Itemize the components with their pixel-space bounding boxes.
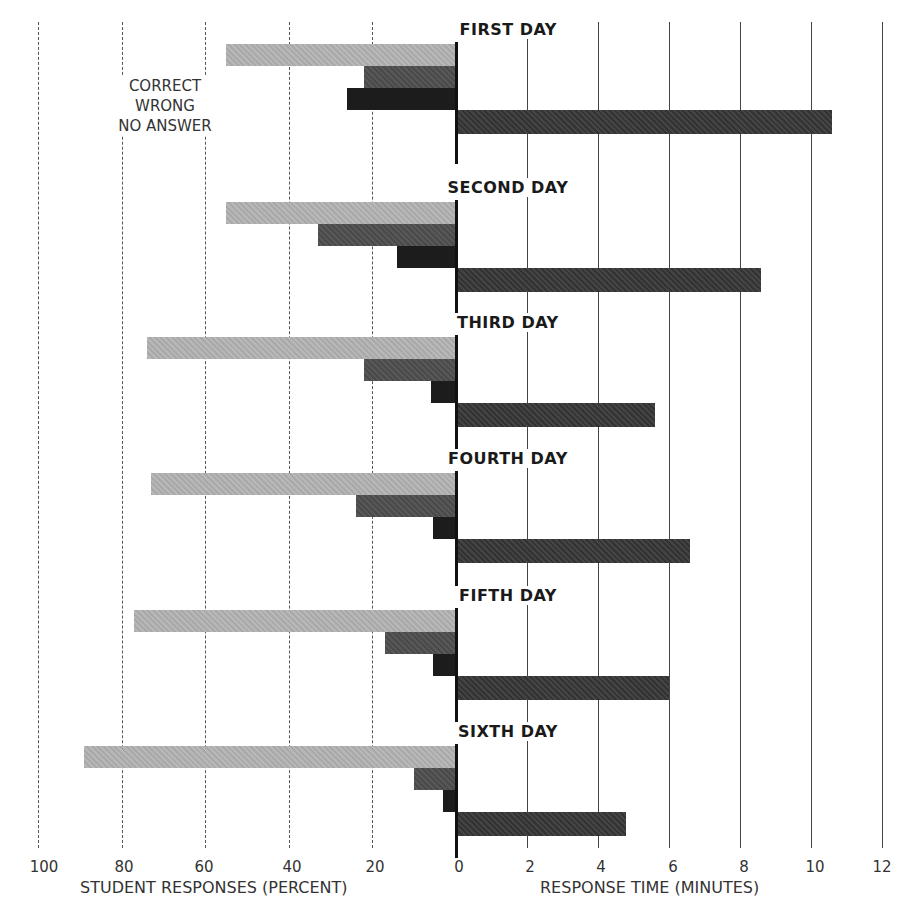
bar-response-time: [456, 403, 655, 427]
bar-response-time: [456, 110, 832, 134]
left-axis-label: STUDENT RESPONSES (PERCENT): [80, 878, 348, 897]
bar-response-time: [456, 268, 761, 292]
gridline-percent-60: [205, 22, 206, 848]
tick-60: 60: [194, 858, 213, 876]
gridline-percent-100: [38, 22, 39, 848]
zero-axis: [455, 200, 458, 322]
day-label: FIRST DAY: [456, 20, 561, 39]
day-label: FOURTH DAY: [444, 449, 572, 468]
tick-80: 80: [114, 858, 133, 876]
right-axis-label: RESPONSE TIME (MINUTES): [540, 878, 759, 897]
gridline-minutes-6: [669, 22, 670, 848]
day-label: SIXTH DAY: [454, 722, 562, 741]
legend-wrong: WRONG: [90, 96, 240, 116]
bar-correct: [151, 473, 456, 495]
gridline-percent-20: [372, 22, 373, 848]
tick-40: 40: [282, 858, 301, 876]
bar-response-time: [456, 676, 669, 700]
bar-wrong: [385, 632, 456, 654]
tick-2-min: 2: [525, 858, 535, 876]
bar-no-answer: [397, 246, 456, 268]
tick-8-min: 8: [739, 858, 749, 876]
legend-correct: CORRECT: [90, 76, 240, 96]
bar-wrong: [364, 66, 456, 88]
tick-100: 100: [30, 858, 59, 876]
bar-no-answer: [431, 381, 456, 403]
bar-no-answer: [433, 517, 456, 539]
legend: CORRECT WRONG NO ANSWER: [90, 76, 240, 136]
response-chart: FIRST DAYSECOND DAYTHIRD DAYFOURTH DAYFI…: [0, 0, 904, 919]
gridline-minutes-8: [740, 22, 741, 848]
gridline-minutes-4: [598, 22, 599, 848]
bar-no-answer: [347, 88, 456, 110]
day-label: FIFTH DAY: [455, 586, 561, 605]
day-label: THIRD DAY: [453, 313, 563, 332]
zero-axis: [455, 335, 458, 457]
tick-10-min: 10: [805, 858, 824, 876]
bar-correct: [84, 746, 456, 768]
bar-correct: [134, 610, 456, 632]
legend-no-answer: NO ANSWER: [90, 116, 240, 136]
tick-6-min: 6: [668, 858, 678, 876]
tick-4-min: 4: [596, 858, 606, 876]
bar-wrong: [318, 224, 456, 246]
tick-12-min: 12: [872, 858, 891, 876]
gridline-percent-40: [289, 22, 290, 848]
tick-0: 0: [454, 858, 464, 876]
zero-axis: [455, 471, 458, 593]
zero-axis: [455, 42, 458, 164]
zero-axis: [455, 608, 458, 730]
bar-correct: [226, 44, 456, 66]
tick-20: 20: [365, 858, 384, 876]
gridline-percent-80: [122, 22, 123, 848]
gridline-minutes-10: [811, 22, 812, 848]
day-label: SECOND DAY: [444, 178, 573, 197]
bar-correct: [147, 337, 456, 359]
bar-correct: [226, 202, 456, 224]
bar-response-time: [456, 539, 690, 563]
gridline-minutes-12: [882, 22, 883, 848]
bar-response-time: [456, 812, 626, 836]
zero-axis: [455, 744, 458, 858]
bar-wrong: [364, 359, 456, 381]
bar-wrong: [414, 768, 456, 790]
bar-no-answer: [433, 654, 456, 676]
bar-wrong: [356, 495, 456, 517]
